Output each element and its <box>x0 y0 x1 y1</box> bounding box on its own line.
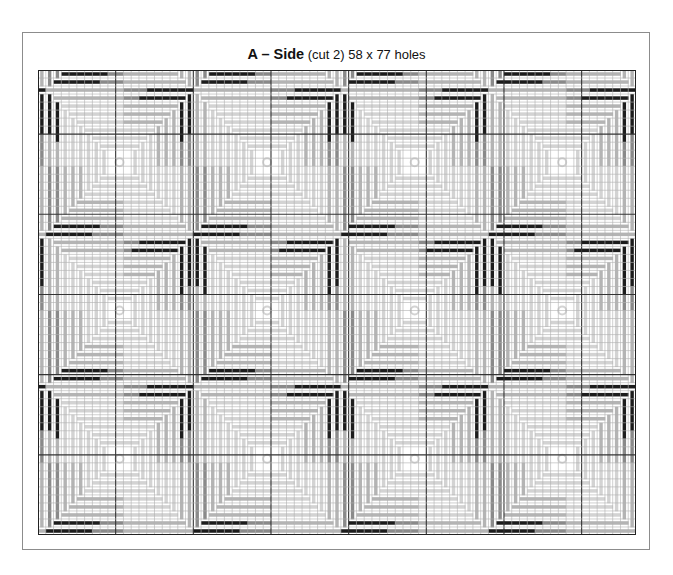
chart-title-details: (cut 2) 58 x 77 holes <box>304 47 425 62</box>
chart-title: A – Side (cut 2) 58 x 77 holes <box>0 46 673 62</box>
chart-border <box>38 70 636 535</box>
chart-title-name: A – Side <box>247 46 304 62</box>
